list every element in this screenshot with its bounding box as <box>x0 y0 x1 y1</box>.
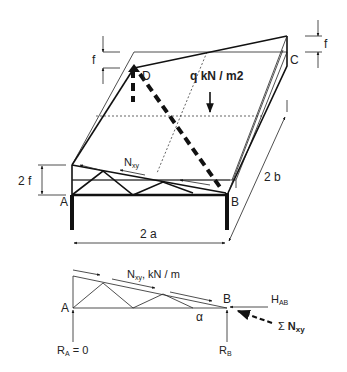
angle-label: α <box>196 310 203 324</box>
shear-label-lower: Nxy, kN / m <box>127 268 180 282</box>
corner-label-A-2d: A <box>61 301 69 315</box>
corner-label-B: B <box>231 195 239 209</box>
edge-truss-elevation: Nxy, kN / m A B α HAB ΣNxy RA = 0 RB <box>57 268 305 357</box>
load-label: q kN / m2 <box>190 69 244 83</box>
sum-shear-label: ΣNxy <box>278 320 305 334</box>
edge-height-label: 2 f <box>18 174 32 188</box>
shear-arrow-2d-3 <box>170 292 212 301</box>
rise-label-right: f <box>324 37 328 51</box>
shear-arrow-2d-2 <box>112 279 155 288</box>
corner-label-A: A <box>60 195 68 209</box>
span-x-dimension: 2 a <box>74 227 225 243</box>
corner-label-B-2d: B <box>223 292 231 306</box>
reaction-A-label: RA = 0 <box>57 344 88 357</box>
reaction-B-label: RB <box>219 344 232 357</box>
hypar-shell-diagram: q kN / m2 Nxy D C A B f f <box>0 0 347 372</box>
truss-top-chord-2d <box>73 276 227 308</box>
span-x-label: 2 a <box>140 227 157 241</box>
truss-web-2d <box>73 283 193 308</box>
shell-3d-view: q kN / m2 Nxy D C A B f f <box>18 20 328 243</box>
shear-label-upper: Nxy <box>124 156 139 170</box>
sum-shear-arrow <box>238 311 272 323</box>
edge-height-dimension: 2 f <box>18 165 66 195</box>
compression-line-diagonal <box>140 74 222 190</box>
point-D-marker <box>128 64 140 72</box>
rise-label-left: f <box>92 53 96 67</box>
rise-dimension-left: f <box>92 36 120 84</box>
span-y-label: 2 b <box>264 170 281 184</box>
shear-arrow-2d-1 <box>73 270 100 275</box>
shell-edge-C-side <box>232 36 287 180</box>
corner-label-C: C <box>290 53 299 67</box>
corner-label-D: D <box>142 69 151 83</box>
rise-dimension-right: f <box>305 20 328 68</box>
horizontal-reaction-label: HAB <box>271 293 289 306</box>
shear-arrow-3 <box>180 180 210 185</box>
reference-plane-outline <box>72 52 287 165</box>
